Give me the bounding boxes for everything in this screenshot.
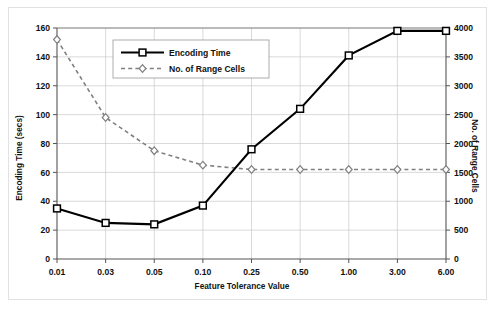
x-axis-tick-labels: 0.010.030.050.100.250.501.003.006.00 <box>49 267 455 277</box>
left-tick-label: 0 <box>45 254 50 264</box>
x-tick-label: 1.00 <box>340 267 357 277</box>
left-tick-label: 80 <box>40 139 50 149</box>
right-tick-label: 3500 <box>454 52 473 62</box>
x-tick-label: 0.05 <box>146 267 163 277</box>
data-point-marker <box>394 27 401 34</box>
data-point-marker <box>248 146 255 153</box>
chart-legend: Encoding Time No. of Range Cells <box>113 40 269 78</box>
right-tick-label: 4000 <box>454 23 473 33</box>
x-tick-label: 0.10 <box>195 267 212 277</box>
x-tick-label: 6.00 <box>438 267 455 277</box>
chart-figure: 020406080100120140160 050010001500200025… <box>0 0 499 309</box>
left-tick-label: 160 <box>36 23 51 33</box>
right-tick-label: 0 <box>454 254 459 264</box>
x-tick-label: 3.00 <box>389 267 406 277</box>
left-tick-label: 40 <box>40 196 50 206</box>
x-tick-label: 0.03 <box>97 267 114 277</box>
left-tick-label: 140 <box>36 52 51 62</box>
line-chart: 020406080100120140160 050010001500200025… <box>9 8 486 299</box>
x-tick-label: 0.25 <box>243 267 260 277</box>
data-point-marker <box>345 52 352 59</box>
right-tick-label: 3000 <box>454 81 473 91</box>
right-tick-label: 500 <box>454 225 469 235</box>
x-tick-label: 0.50 <box>292 267 309 277</box>
left-tick-label: 100 <box>36 110 51 120</box>
data-point-marker <box>297 105 304 112</box>
data-point-marker <box>102 220 109 227</box>
left-tick-label: 20 <box>40 225 50 235</box>
x-axis-title: Feature Tolerance Value <box>195 281 290 291</box>
right-tick-label: 1000 <box>454 196 473 206</box>
left-tick-label: 60 <box>40 168 50 178</box>
x-tick-label: 0.01 <box>49 267 66 277</box>
data-point-marker <box>54 205 61 212</box>
legend-label-no-of-range-cells: No. of Range Cells <box>169 64 245 74</box>
data-point-marker <box>151 221 158 228</box>
left-axis-title: Encoding Time (secs) <box>14 115 24 201</box>
data-point-marker <box>199 202 206 209</box>
legend-label-encoding-time: Encoding Time <box>169 48 231 58</box>
right-tick-label: 2500 <box>454 110 473 120</box>
left-tick-label: 120 <box>36 81 51 91</box>
figure-frame: 020406080100120140160 050010001500200025… <box>8 7 487 300</box>
right-axis-title: No. of Range Cells <box>470 119 480 193</box>
data-point-marker <box>139 49 146 56</box>
data-point-marker <box>443 27 450 34</box>
